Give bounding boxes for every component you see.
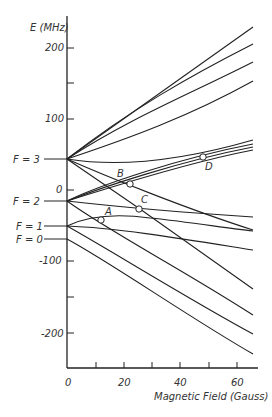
marker-a xyxy=(98,217,104,223)
level-label-f1: F = 1 xyxy=(16,221,43,232)
curve-f0 xyxy=(67,239,253,354)
x-tick-label-40: 40 xyxy=(174,377,187,388)
point-label-d: D xyxy=(205,161,213,172)
x-ticks xyxy=(96,362,237,368)
marker-c xyxy=(136,206,142,212)
x-tick-label-0: 0 xyxy=(65,377,71,388)
y-tick-label-200: 200 xyxy=(45,42,64,53)
zeeman-energy-chart: E (MHz) 200 100 0 -100 -200 0 20 40 60 M… xyxy=(0,0,272,417)
curve-f1-c xyxy=(67,226,253,334)
point-label-c: C xyxy=(141,194,148,205)
y-ticks xyxy=(67,48,74,333)
curve-f1-b xyxy=(67,226,253,250)
y-axis-title: E (MHz) xyxy=(30,22,69,33)
point-label-a: A xyxy=(104,206,112,217)
level-label-f2: F = 2 xyxy=(13,196,40,207)
y-tick-label-100: 100 xyxy=(45,113,64,124)
curve-f3-e xyxy=(67,140,253,163)
y-tick-label-0: 0 xyxy=(56,184,62,195)
marker-d xyxy=(200,154,206,160)
y-tick-label-neg200: -200 xyxy=(41,328,64,339)
energy-curves xyxy=(67,27,253,354)
x-tick-label-60: 60 xyxy=(231,377,244,388)
x-axis-title: Magnetic Field (Gauss) xyxy=(154,391,268,402)
level-label-f3: F = 3 xyxy=(13,154,40,165)
level-label-f0: F = 0 xyxy=(16,234,43,245)
x-tick-label-20: 20 xyxy=(118,377,131,388)
curve-f3-a xyxy=(67,27,253,159)
marker-b xyxy=(127,181,133,187)
curve-f3-c xyxy=(67,62,253,159)
level-lines xyxy=(44,159,67,239)
curve-f3-g xyxy=(67,159,253,289)
point-label-b: B xyxy=(117,168,124,179)
curve-f2-c xyxy=(67,150,253,201)
curve-f2-b xyxy=(67,147,253,201)
curve-f2-d xyxy=(67,201,253,217)
y-tick-label-neg100: -100 xyxy=(39,255,62,266)
